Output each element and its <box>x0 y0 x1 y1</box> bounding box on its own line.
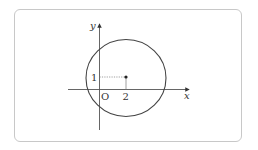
center-point <box>124 75 127 78</box>
x-tick-label-2: 2 <box>123 91 129 102</box>
x-axis-label: x <box>184 90 190 101</box>
coordinate-diagram: y x O 2 1 <box>0 0 258 150</box>
origin-label: O <box>101 91 109 102</box>
y-tick-label-1: 1 <box>91 72 97 83</box>
y-axis-label: y <box>89 20 96 31</box>
